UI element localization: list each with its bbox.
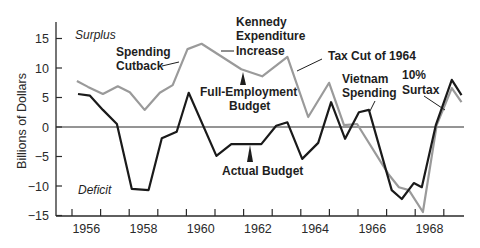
surtax-label-2: Surtax [402,83,440,97]
x-tick-label: 1962 [244,222,272,236]
x-tick-label: 1964 [301,222,329,236]
surplus-label: Surplus [75,28,116,42]
y-tick-label: 15 [35,32,49,46]
surtax-label-1: 10% [402,68,426,82]
y-axis-title: Billions of Dollars [15,73,29,169]
full-employment-pointer [240,72,246,85]
y-tick-label: 5 [42,91,49,105]
vietnam-label-1: Vietnam [342,72,388,86]
x-tick-label: 1960 [187,222,215,236]
x-tick-label: 1956 [72,222,100,236]
vietnam-pointer [370,101,375,111]
budget-chart: Billions of Dollars 151050−5−10−15 19561… [0,0,480,248]
y-tick-label: −10 [28,180,49,194]
y-tick-label: 0 [42,121,49,135]
tax-cut-label: Tax Cut of 1964 [328,49,416,63]
actual-budget-label: Actual Budget [222,164,303,178]
full-employment-label-1: Full-Employment [200,85,297,99]
x-tick-label: 1968 [416,222,444,236]
y-tick-label: 10 [35,62,49,76]
x-tick-label: 1958 [130,222,158,236]
actual-budget-pointer [247,145,253,162]
y-tick-label: −15 [28,209,49,223]
tax-cut-pointer [297,59,322,71]
y-tick-label: −5 [35,150,49,164]
vietnam-label-2: Spending [342,86,397,100]
spending-cutback-label-1: Spending [116,45,171,59]
x-ticks: 1956195819601962196419661968 [72,209,444,236]
full-employment-label-2: Budget [229,99,270,113]
kennedy-label-3: Increase [236,44,285,58]
surtax-pointer [424,96,445,110]
spending-cutback-pointer [162,62,179,66]
x-tick-label: 1966 [358,222,386,236]
y-ticks: 151050−5−10−15 [28,32,62,223]
kennedy-label-1: Kennedy [236,15,287,29]
deficit-label: Deficit [78,183,112,197]
spending-cutback-label-2: Cutback [116,59,164,73]
kennedy-label-2: Expenditure [236,29,306,43]
